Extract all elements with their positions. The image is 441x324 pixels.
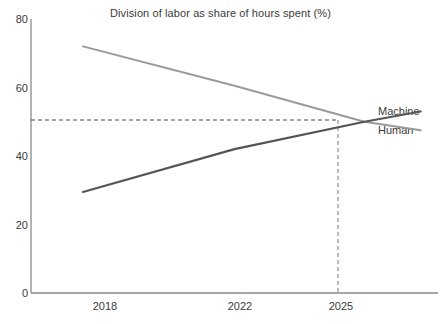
series-line-human [83,46,421,130]
plot-area [0,0,441,324]
chart-container: Division of labor as share of hours spen… [0,0,441,324]
